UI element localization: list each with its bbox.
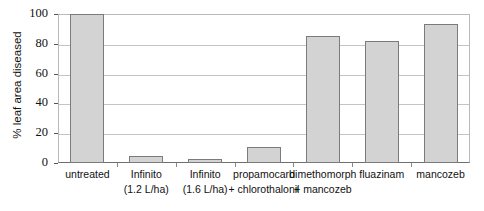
bar: [306, 36, 340, 163]
x-axis-label-line1: fluazinam: [359, 168, 404, 180]
y-tick-label: 0: [8, 156, 48, 169]
bar-slot: [293, 14, 352, 163]
x-axis-label-line1: Infinito: [190, 168, 221, 180]
x-axis-label-line1: Infinito: [131, 168, 162, 180]
y-tick-label: 20: [8, 126, 48, 139]
x-axis-label-line1: mancozeb: [416, 168, 464, 180]
y-tick-label: 80: [8, 37, 48, 50]
y-tick-mark: [54, 163, 58, 164]
bar: [70, 14, 104, 163]
y-tick-label: 100: [8, 7, 48, 20]
bar-slot: [352, 14, 411, 163]
x-axis-label: mancozeb: [403, 167, 478, 182]
x-axis-labels: untreatedInfinito(1.2 L/ha)Infinito(1.6 …: [58, 167, 470, 211]
y-tick-label: 60: [8, 67, 48, 80]
bar-slot: [117, 14, 176, 163]
bar-chart: % leaf area diseased 020406080100 untrea…: [0, 0, 484, 211]
bar-slot: [176, 14, 235, 163]
bar: [247, 147, 281, 163]
bar: [424, 24, 458, 163]
bar-series: [58, 14, 470, 163]
bar: [365, 41, 399, 163]
x-axis-label-line2: + mancozeb: [285, 182, 360, 197]
bar-slot: [58, 14, 117, 163]
x-axis-label-line1: untreated: [65, 168, 109, 180]
bar-slot: [411, 14, 470, 163]
bar-slot: [235, 14, 294, 163]
y-axis-title: % leaf area diseased: [11, 5, 23, 165]
bar: [129, 156, 163, 163]
y-tick-label: 40: [8, 96, 48, 109]
bar: [188, 159, 222, 163]
